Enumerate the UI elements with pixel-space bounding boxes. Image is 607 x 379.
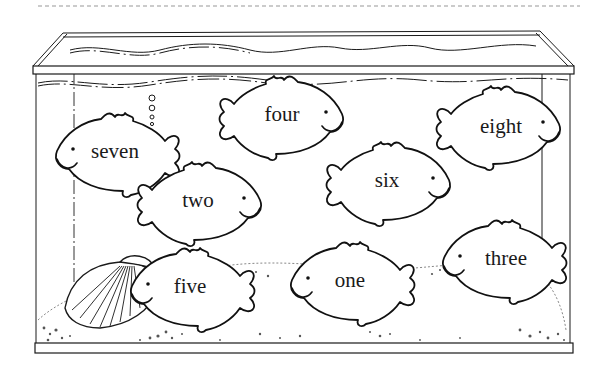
fish-four[interactable]: four [220,76,344,160]
fish-label: seven [91,139,139,163]
fish-three[interactable]: three [443,220,567,304]
fish-label: five [174,274,207,298]
fish-label: two [182,188,214,212]
fish-label: eight [480,114,522,138]
fish-label: four [265,102,300,126]
bubbles [149,95,155,126]
fish-tank-illustration: seven four eight two six five one three [0,0,607,379]
fish-label: one [335,268,365,292]
fish-six[interactable]: six [327,142,451,226]
fish-one[interactable]: one [291,242,415,326]
fish-label: three [485,246,527,270]
fish-label: six [375,168,400,192]
